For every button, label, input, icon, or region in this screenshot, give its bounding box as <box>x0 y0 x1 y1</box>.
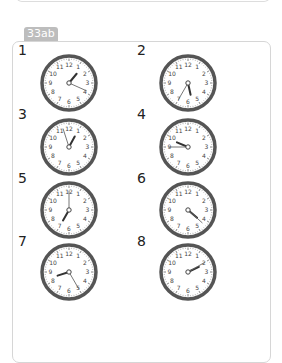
clock-icon: 121234567891011 <box>40 54 98 112</box>
svg-text:11: 11 <box>56 63 64 70</box>
svg-text:4: 4 <box>83 277 87 284</box>
svg-text:12: 12 <box>184 61 192 68</box>
svg-text:3: 3 <box>205 268 209 275</box>
svg-text:10: 10 <box>168 197 176 204</box>
exercise-number: 7 <box>18 233 27 249</box>
svg-text:6: 6 <box>186 162 190 169</box>
svg-text:4: 4 <box>202 88 206 95</box>
svg-text:3: 3 <box>86 206 90 213</box>
svg-text:6: 6 <box>186 98 190 105</box>
exercise-number: 6 <box>137 170 146 186</box>
exercise-number: 5 <box>18 170 27 186</box>
svg-text:1: 1 <box>195 190 199 197</box>
svg-text:2: 2 <box>202 70 206 77</box>
svg-text:11: 11 <box>175 252 183 259</box>
clock-icon: 121234567891011 <box>159 181 217 239</box>
exercise-number: 1 <box>18 42 27 58</box>
svg-text:4: 4 <box>83 215 87 222</box>
svg-text:9: 9 <box>168 268 172 275</box>
svg-text:12: 12 <box>184 250 192 257</box>
previous-card-edge <box>16 0 270 2</box>
svg-text:12: 12 <box>184 188 192 195</box>
svg-text:10: 10 <box>49 197 57 204</box>
svg-text:11: 11 <box>56 190 64 197</box>
svg-text:3: 3 <box>86 268 90 275</box>
svg-text:9: 9 <box>168 79 172 86</box>
svg-text:11: 11 <box>175 127 183 134</box>
svg-text:8: 8 <box>51 215 55 222</box>
svg-text:12: 12 <box>65 250 73 257</box>
svg-text:10: 10 <box>49 70 57 77</box>
svg-text:6: 6 <box>67 287 71 294</box>
exercise-number: 8 <box>137 233 146 249</box>
svg-text:1: 1 <box>195 252 199 259</box>
svg-text:3: 3 <box>205 143 209 150</box>
clock-icon: 121234567891011 <box>159 54 217 112</box>
clock-icon: 121234567891011 <box>40 181 98 239</box>
svg-text:7: 7 <box>58 159 62 166</box>
svg-text:12: 12 <box>65 125 73 132</box>
svg-text:9: 9 <box>49 268 53 275</box>
svg-text:3: 3 <box>205 79 209 86</box>
svg-text:4: 4 <box>202 277 206 284</box>
svg-text:2: 2 <box>83 259 87 266</box>
svg-text:10: 10 <box>49 134 57 141</box>
svg-text:1: 1 <box>195 127 199 134</box>
svg-text:10: 10 <box>49 259 57 266</box>
svg-text:8: 8 <box>170 277 174 284</box>
svg-text:1: 1 <box>76 127 80 134</box>
svg-text:2: 2 <box>83 134 87 141</box>
svg-text:7: 7 <box>177 222 181 229</box>
svg-text:5: 5 <box>195 159 199 166</box>
svg-text:9: 9 <box>49 206 53 213</box>
svg-text:2: 2 <box>83 70 87 77</box>
svg-text:1: 1 <box>195 63 199 70</box>
svg-text:4: 4 <box>202 152 206 159</box>
svg-text:10: 10 <box>168 134 176 141</box>
svg-text:8: 8 <box>170 152 174 159</box>
svg-text:5: 5 <box>195 284 199 291</box>
svg-text:3: 3 <box>86 143 90 150</box>
svg-text:8: 8 <box>51 88 55 95</box>
svg-text:4: 4 <box>83 152 87 159</box>
svg-text:4: 4 <box>202 215 206 222</box>
svg-text:2: 2 <box>202 197 206 204</box>
clock-icon: 121234567891011 <box>40 118 98 176</box>
svg-text:9: 9 <box>168 206 172 213</box>
svg-text:7: 7 <box>177 284 181 291</box>
svg-text:6: 6 <box>186 225 190 232</box>
svg-text:6: 6 <box>67 98 71 105</box>
svg-text:8: 8 <box>51 277 55 284</box>
svg-text:7: 7 <box>177 159 181 166</box>
svg-text:1: 1 <box>76 252 80 259</box>
svg-text:5: 5 <box>76 95 80 102</box>
svg-text:6: 6 <box>186 287 190 294</box>
svg-text:12: 12 <box>65 61 73 68</box>
svg-text:8: 8 <box>170 88 174 95</box>
svg-text:5: 5 <box>76 159 80 166</box>
svg-text:8: 8 <box>170 215 174 222</box>
clock-icon: 121234567891011 <box>159 243 217 301</box>
svg-text:10: 10 <box>168 259 176 266</box>
svg-text:3: 3 <box>205 206 209 213</box>
svg-text:3: 3 <box>86 79 90 86</box>
svg-text:11: 11 <box>56 252 64 259</box>
svg-text:10: 10 <box>168 70 176 77</box>
clock-icon: 121234567891011 <box>159 118 217 176</box>
svg-text:1: 1 <box>76 63 80 70</box>
svg-text:1: 1 <box>76 190 80 197</box>
section-label: 33ab <box>24 27 58 41</box>
svg-text:11: 11 <box>56 127 64 134</box>
svg-text:9: 9 <box>49 143 53 150</box>
exercise-number: 2 <box>137 42 146 58</box>
svg-text:5: 5 <box>195 222 199 229</box>
svg-text:7: 7 <box>58 222 62 229</box>
svg-text:5: 5 <box>195 95 199 102</box>
svg-text:11: 11 <box>175 190 183 197</box>
svg-text:7: 7 <box>58 284 62 291</box>
svg-text:5: 5 <box>76 222 80 229</box>
svg-text:12: 12 <box>184 125 192 132</box>
clock-icon: 121234567891011 <box>40 243 98 301</box>
svg-text:2: 2 <box>202 134 206 141</box>
exercise-number: 4 <box>137 106 146 122</box>
